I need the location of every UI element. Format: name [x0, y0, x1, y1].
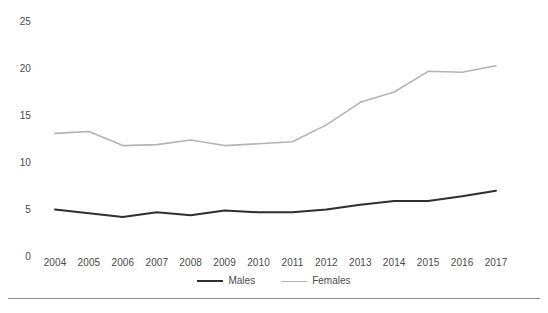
x-tick-label: 2012 — [309, 258, 343, 268]
x-tick-label: 2006 — [106, 258, 140, 268]
y-tick-label: 25 — [5, 17, 31, 27]
chart-legend: Males Females — [0, 276, 548, 286]
x-tick-label: 2011 — [276, 258, 310, 268]
legend-line-icon-males — [197, 280, 223, 282]
x-tick-label: 2004 — [38, 258, 72, 268]
legend-label-females: Females — [312, 276, 350, 286]
y-tick-label: 20 — [5, 64, 31, 74]
y-tick-label: 15 — [5, 111, 31, 121]
line-chart: 2520151050 20042005200620072008200920102… — [0, 0, 548, 313]
x-tick-label: 2007 — [140, 258, 174, 268]
x-tick-label: 2005 — [72, 258, 106, 268]
y-tick-label: 5 — [5, 205, 31, 215]
legend-item-males[interactable]: Males — [197, 276, 255, 286]
x-tick-label: 2009 — [208, 258, 242, 268]
x-tick-label: 2017 — [479, 258, 513, 268]
footer-divider — [8, 298, 540, 299]
y-tick-label: 10 — [5, 158, 31, 168]
y-tick-label: 0 — [5, 252, 31, 262]
series-line-females — [55, 66, 496, 146]
legend-line-icon-females — [281, 281, 307, 282]
x-tick-label: 2010 — [242, 258, 276, 268]
legend-item-females[interactable]: Females — [281, 276, 350, 286]
x-tick-label: 2013 — [343, 258, 377, 268]
legend-label-males: Males — [228, 276, 255, 286]
x-tick-label: 2014 — [377, 258, 411, 268]
x-tick-label: 2015 — [411, 258, 445, 268]
x-tick-label: 2016 — [445, 258, 479, 268]
series-line-males — [55, 191, 496, 217]
series-females-group — [55, 66, 496, 146]
x-tick-label: 2008 — [174, 258, 208, 268]
series-males-group — [55, 191, 496, 217]
